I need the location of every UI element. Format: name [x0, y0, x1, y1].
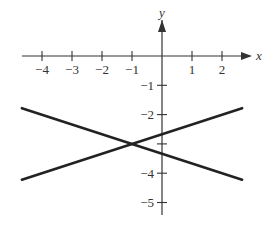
y-tick-label: −2	[140, 107, 154, 122]
y-ticks: −1−2−4−5	[140, 78, 167, 210]
y-axis-label: y	[157, 5, 165, 20]
x-tick-label: 2	[219, 62, 226, 77]
x-ticks: −4−3−2−112	[35, 51, 225, 77]
x-tick-label: −1	[125, 62, 139, 77]
x-tick-label: −3	[65, 62, 79, 77]
x-tick-label: 1	[189, 62, 196, 77]
y-axis-arrow-icon	[158, 20, 166, 32]
data-lines	[22, 108, 242, 179]
x-axis-arrow-icon	[241, 52, 252, 60]
y-tick-label: −4	[140, 166, 154, 181]
x-tick-label: −4	[35, 62, 49, 77]
y-tick-label: −5	[140, 195, 154, 210]
x-axis-label: x	[255, 48, 262, 63]
y-tick-label: −1	[140, 78, 154, 93]
chart: x y −4−3−2−112 −1−2−4−5	[0, 0, 273, 227]
x-tick-label: −2	[95, 62, 109, 77]
